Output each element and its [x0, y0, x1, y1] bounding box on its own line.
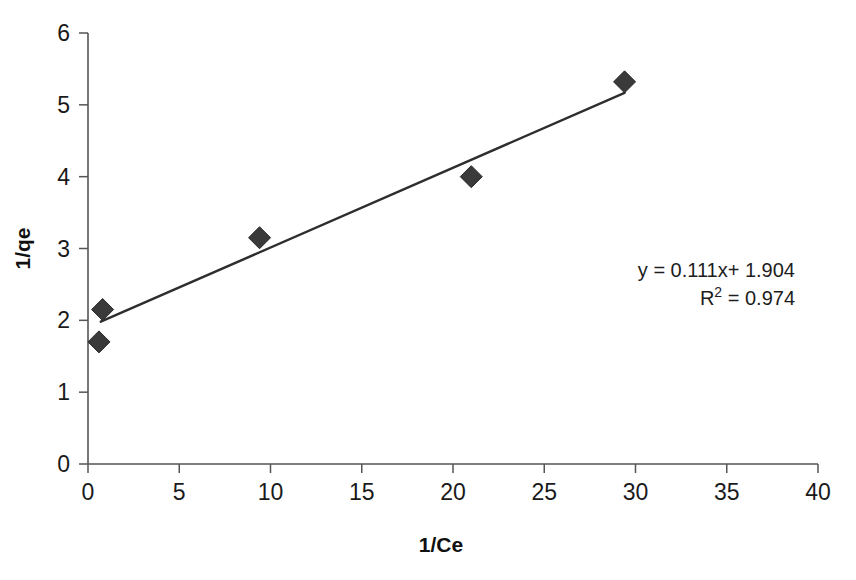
data-point-marker [249, 227, 271, 249]
y-tick-label: 6 [57, 20, 70, 46]
data-point-marker [88, 331, 110, 353]
y-axis-title: 1/qe [11, 227, 34, 269]
data-point-marker [614, 71, 636, 93]
y-tick-label: 4 [57, 164, 70, 190]
x-tick-label: 5 [173, 479, 186, 505]
trendline-equation-label: y = 0.111x+ 1.904 [638, 259, 795, 281]
r-squared-label: R2 = 0.974 [700, 284, 795, 309]
x-tick-label: 35 [714, 479, 740, 505]
y-tick-label: 0 [57, 451, 70, 477]
x-tick-label: 25 [531, 479, 557, 505]
y-tick-label: 3 [57, 236, 70, 262]
x-tick-label: 20 [440, 479, 466, 505]
x-tick-label: 15 [349, 479, 375, 505]
y-tick-label: 1 [57, 379, 70, 405]
x-tick-label: 0 [82, 479, 95, 505]
plot-canvas: 051015202530354001234561/Ce1/qey = 0.111… [0, 0, 856, 580]
y-tick-label: 5 [57, 92, 70, 118]
x-axis-title: 1/Ce [419, 533, 463, 556]
x-tick-label: 10 [258, 479, 284, 505]
x-tick-label: 40 [805, 479, 831, 505]
scatter-chart-figure: 051015202530354001234561/Ce1/qey = 0.111… [0, 0, 856, 580]
x-tick-label: 30 [623, 479, 649, 505]
y-tick-label: 2 [57, 307, 70, 333]
trendline [101, 93, 625, 322]
data-point-marker [460, 166, 482, 188]
